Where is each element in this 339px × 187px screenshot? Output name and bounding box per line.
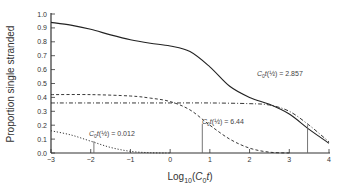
- x-tick-label: −1: [126, 156, 134, 163]
- y-tick-label: 0.1: [37, 136, 47, 143]
- y-axis-title: Proportion single stranded: [5, 26, 16, 143]
- annotation-c0t-2857: C0t(½) = 2.857: [257, 70, 303, 79]
- y-tick-label: 0.4: [37, 94, 47, 101]
- y-tick-label: 0.5: [37, 80, 47, 87]
- x-tick-label: −2: [87, 156, 95, 163]
- x-tick-label: 0: [168, 156, 172, 163]
- x-tick-label: 3: [287, 156, 291, 163]
- x-tick-label: −3: [47, 156, 55, 163]
- x-tick-label: 4: [327, 156, 331, 163]
- x-axis-title: Log10(C0t): [167, 171, 212, 184]
- y-tick-label: 0.3: [37, 108, 47, 115]
- x-tick-label: 1: [208, 156, 212, 163]
- y-tick-label: 0.6: [37, 66, 47, 73]
- y-tick-label: 0.2: [37, 122, 47, 129]
- series-line-0: [51, 22, 329, 143]
- x-axis: −3−2−101234: [47, 149, 331, 163]
- x-tick-label: 2: [248, 156, 252, 163]
- y-tick-label: 0.9: [37, 24, 47, 31]
- annotation-c0t-644: C0t(½) = 6.44: [202, 118, 244, 127]
- chart: 0.00.10.20.30.40.50.60.70.80.91.0 −3−2−1…: [0, 0, 339, 187]
- marker-layer: [94, 124, 308, 153]
- y-tick-label: 0.7: [37, 52, 47, 59]
- y-tick-label: 1.0: [37, 11, 47, 18]
- y-tick-label: 0.0: [37, 150, 47, 157]
- y-axis: 0.00.10.20.30.40.50.60.70.80.91.0: [37, 11, 55, 157]
- annotation-c0t-0012: C0t(½) = 0.012: [89, 130, 135, 139]
- y-tick-label: 0.8: [37, 38, 47, 45]
